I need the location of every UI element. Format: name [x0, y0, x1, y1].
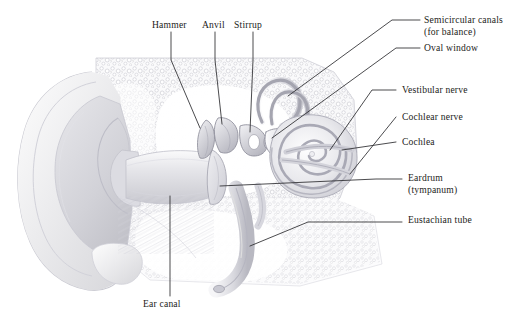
label-ear-canal: Ear canal — [143, 298, 181, 309]
ear-canal — [118, 151, 214, 258]
label-cochlear-nerve: Cochlear nerve — [402, 111, 463, 122]
label-semicircular-canals-sub: (for balance) — [424, 26, 476, 37]
label-eardrum: Eardrum — [408, 172, 443, 183]
label-semicircular-canals: Semicircular canals — [424, 14, 503, 25]
label-eustachian-tube: Eustachian tube — [408, 214, 472, 225]
cochlea — [270, 115, 357, 198]
label-cochlea: Cochlea — [402, 136, 435, 147]
label-vestibular-nerve: Vestibular nerve — [402, 84, 468, 95]
label-oval-window: Oval window — [424, 42, 478, 53]
ear-anatomy-figure: Hammer Anvil Stirrup Semicircular canals… — [0, 0, 519, 317]
label-eardrum-sub: (tympanum) — [408, 184, 457, 195]
label-stirrup: Stirrup — [234, 19, 262, 30]
label-anvil: Anvil — [202, 19, 225, 30]
label-hammer: Hammer — [152, 19, 187, 30]
